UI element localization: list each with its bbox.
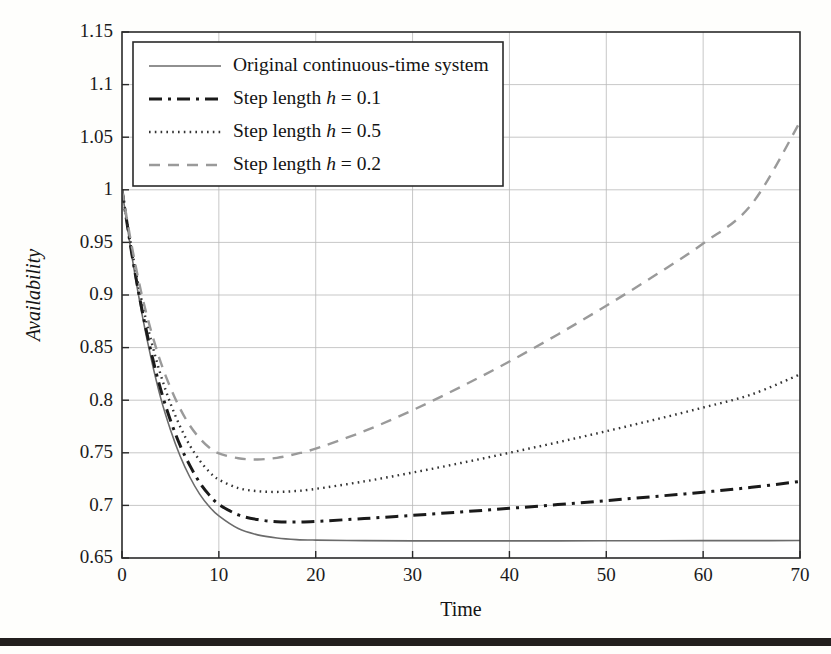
bottom-edge-band (0, 638, 831, 646)
y-tick-label: 0.7 (89, 494, 113, 515)
x-tick-label: 20 (306, 564, 325, 585)
legend-label: Step length h = 0.1 (233, 87, 381, 108)
x-tick-label: 70 (791, 564, 810, 585)
legend-label-variable: h (326, 153, 336, 174)
legend-label: Step length h = 0.5 (233, 120, 381, 141)
y-tick-label: 1.15 (80, 20, 113, 41)
x-tick-label: 30 (403, 564, 422, 585)
x-axis-title: Time (440, 598, 482, 620)
legend-label-variable: h (326, 120, 336, 141)
legend: Original continuous-time systemStep leng… (133, 42, 503, 186)
x-tick-label: 50 (597, 564, 616, 585)
y-tick-label: 1 (104, 178, 114, 199)
chart-figure: 0.650.70.750.80.850.90.9511.051.11.15010… (0, 0, 831, 654)
line-chart: 0.650.70.750.80.850.90.9511.051.11.15010… (0, 0, 831, 654)
y-tick-label: 0.9 (89, 283, 113, 304)
y-tick-label: 0.65 (80, 546, 113, 567)
x-tick-label: 60 (694, 564, 713, 585)
y-tick-label: 1.1 (89, 73, 113, 94)
y-tick-label: 1.05 (80, 126, 113, 147)
legend-label-variable: h (326, 87, 336, 108)
x-tick-label: 0 (117, 564, 127, 585)
y-tick-label: 0.95 (80, 231, 113, 252)
y-tick-label: 0.75 (80, 441, 113, 462)
y-tick-label: 0.8 (89, 389, 113, 410)
y-tick-label: 0.85 (80, 336, 113, 357)
legend-label: Original continuous-time system (233, 54, 489, 75)
x-tick-label: 40 (500, 564, 519, 585)
x-tick-label: 10 (209, 564, 228, 585)
y-axis-title: Availability (22, 249, 45, 343)
legend-label: Step length h = 0.2 (233, 153, 381, 174)
